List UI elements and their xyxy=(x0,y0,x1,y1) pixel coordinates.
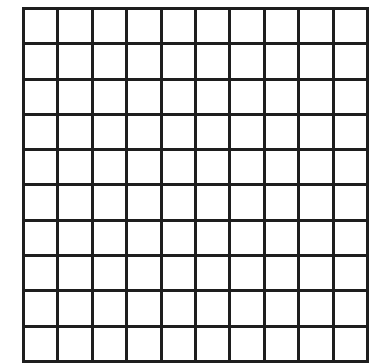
grid-cell xyxy=(59,10,93,45)
grid-cell xyxy=(335,186,369,221)
grid-cell xyxy=(163,10,197,45)
grid-cell xyxy=(300,116,334,151)
grid-cell xyxy=(335,10,369,45)
grid-cell xyxy=(59,81,93,116)
grid-cell xyxy=(266,328,300,363)
grid-cell xyxy=(197,81,231,116)
grid-cell xyxy=(231,151,265,186)
grid-cell xyxy=(94,45,128,80)
grid-cell xyxy=(59,292,93,327)
grid-cell xyxy=(163,45,197,80)
grid-cell xyxy=(231,81,265,116)
grid-cell xyxy=(231,10,265,45)
grid-cell xyxy=(266,292,300,327)
grid-cell xyxy=(128,257,162,292)
grid-cell xyxy=(59,151,93,186)
grid-cell xyxy=(163,186,197,221)
grid-cell xyxy=(335,81,369,116)
grid-cell xyxy=(300,328,334,363)
grid-cell xyxy=(25,81,59,116)
grid-cell xyxy=(94,186,128,221)
grid-cell xyxy=(335,328,369,363)
grid-cell xyxy=(94,222,128,257)
grid-cell xyxy=(266,186,300,221)
grid-cell xyxy=(163,81,197,116)
grid-cell xyxy=(59,222,93,257)
grid-cell xyxy=(128,45,162,80)
grid-cell xyxy=(94,328,128,363)
grid-cell xyxy=(335,45,369,80)
grid-cell xyxy=(25,292,59,327)
grid-cell xyxy=(128,81,162,116)
grid-cell xyxy=(25,257,59,292)
grid-cell xyxy=(231,257,265,292)
grid-cell xyxy=(197,45,231,80)
grid-cell xyxy=(59,45,93,80)
grid-cell xyxy=(163,116,197,151)
grid-cell xyxy=(231,116,265,151)
grid-cell xyxy=(94,151,128,186)
grid-cell xyxy=(300,222,334,257)
grid-cell xyxy=(197,116,231,151)
grid-cell xyxy=(266,116,300,151)
grid-cell xyxy=(231,328,265,363)
grid-cell xyxy=(197,292,231,327)
grid-cell xyxy=(266,151,300,186)
grid-cell xyxy=(231,45,265,80)
grid-cell xyxy=(231,186,265,221)
grid-cell xyxy=(163,257,197,292)
grid-cell xyxy=(128,292,162,327)
grid-cell xyxy=(266,10,300,45)
grid-cell xyxy=(231,222,265,257)
grid-cell xyxy=(94,81,128,116)
grid-cell xyxy=(25,186,59,221)
grid-cell xyxy=(25,222,59,257)
grid-cell xyxy=(197,186,231,221)
grid-cell xyxy=(94,10,128,45)
grid-cell xyxy=(197,222,231,257)
grid-cell xyxy=(163,328,197,363)
grid-cell xyxy=(266,81,300,116)
grid-cell xyxy=(25,10,59,45)
square-grid xyxy=(22,7,369,363)
grid-cell xyxy=(59,186,93,221)
grid-cell xyxy=(59,116,93,151)
grid-cell xyxy=(94,116,128,151)
grid-cell xyxy=(197,151,231,186)
grid-cell xyxy=(300,292,334,327)
grid-cell xyxy=(197,257,231,292)
grid-cell xyxy=(300,151,334,186)
grid-cell xyxy=(335,292,369,327)
grid-cell xyxy=(300,45,334,80)
grid-cell xyxy=(25,151,59,186)
grid-cell xyxy=(335,222,369,257)
grid-cell xyxy=(300,257,334,292)
grid-cell xyxy=(266,222,300,257)
grid-cell xyxy=(25,116,59,151)
grid-cell xyxy=(266,257,300,292)
grid-cell xyxy=(197,10,231,45)
grid-cell xyxy=(163,292,197,327)
grid-cell xyxy=(300,186,334,221)
grid-cell xyxy=(300,81,334,116)
grid-cell xyxy=(128,186,162,221)
grid-cell xyxy=(128,328,162,363)
grid-cell xyxy=(59,257,93,292)
grid-cell xyxy=(335,257,369,292)
grid-cell xyxy=(25,45,59,80)
grid-cell xyxy=(335,116,369,151)
grid-cell xyxy=(94,292,128,327)
grid-cell xyxy=(128,222,162,257)
grid-cell xyxy=(335,151,369,186)
grid-cell xyxy=(94,257,128,292)
grid-cell xyxy=(59,328,93,363)
grid-cell xyxy=(128,10,162,45)
grid-cell xyxy=(163,222,197,257)
grid-cell xyxy=(128,151,162,186)
grid-cell xyxy=(128,116,162,151)
grid-cell xyxy=(231,292,265,327)
grid-cell xyxy=(197,328,231,363)
grid-cell xyxy=(25,328,59,363)
grid-cell xyxy=(163,151,197,186)
grid-cell xyxy=(266,45,300,80)
